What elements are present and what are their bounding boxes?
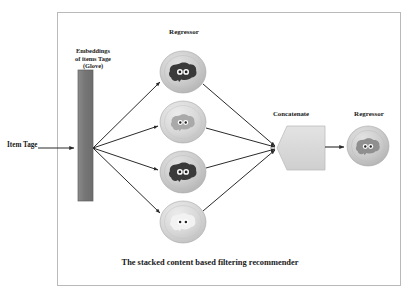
label-embeddings-line2: of items Tage xyxy=(59,55,127,63)
edges-fan-in xyxy=(203,84,275,211)
embedding-bar xyxy=(78,70,93,201)
regressor-node-1 xyxy=(160,51,206,93)
output-regressor-node xyxy=(347,126,389,166)
label-embeddings-line1: Embeddings xyxy=(59,47,127,55)
diagram-graphics xyxy=(0,0,411,297)
edge-bar-to-regressor-1 xyxy=(93,82,160,148)
figure-canvas: Item Tage Embeddings of items Tage (Glov… xyxy=(0,0,411,297)
edge-bar-to-regressor-3 xyxy=(93,148,158,170)
edge-bar-to-regressor-2 xyxy=(93,126,158,148)
label-item-tags: Item Tage xyxy=(7,141,38,149)
edge-bar-to-regressor-4 xyxy=(93,148,160,213)
label-concatenate: Concatenate xyxy=(261,110,321,118)
edges-fan-out xyxy=(93,82,160,213)
figure-caption: The stacked content based filtering reco… xyxy=(93,258,327,268)
regressor-node-4 xyxy=(160,201,206,243)
label-embeddings-line3: (Glove) xyxy=(59,62,127,70)
label-embeddings: Embeddings of items Tage (Glove) xyxy=(59,47,127,70)
label-regressor-layer: Regressor xyxy=(153,28,215,36)
regressor-node-3 xyxy=(160,151,206,193)
label-output-regressor: Regressor xyxy=(340,110,398,118)
concatenate-block xyxy=(277,126,325,170)
regressor-node-2 xyxy=(160,101,206,143)
